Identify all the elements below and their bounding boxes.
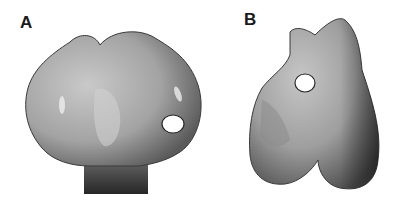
figure-canvas — [0, 0, 412, 207]
marker-circle-b — [295, 74, 315, 92]
bone-specimen-a — [26, 32, 201, 194]
bone-specimen-b — [250, 19, 379, 189]
marker-circle-a — [162, 115, 184, 133]
